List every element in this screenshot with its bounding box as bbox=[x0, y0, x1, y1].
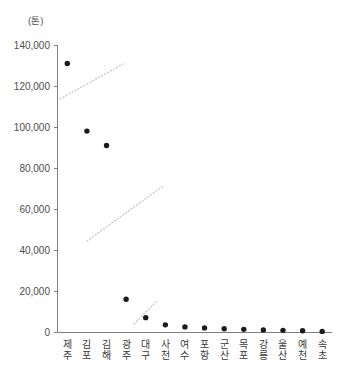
chart-container: (톤) 020,00040,00060,00080,000100,000120,… bbox=[0, 0, 338, 373]
x-axis-category-label: 광 주 bbox=[119, 340, 133, 361]
break-line-3 bbox=[134, 302, 156, 324]
break-line-1 bbox=[60, 64, 123, 99]
y-axis-tick-label: 40,000 bbox=[19, 245, 50, 256]
y-axis-tick-label: 120,000 bbox=[14, 81, 51, 92]
data-point bbox=[163, 322, 168, 327]
break-line-2 bbox=[87, 186, 163, 241]
data-point bbox=[202, 325, 207, 330]
y-axis-tick-labels: 020,00040,00060,00080,000100,000120,0001… bbox=[14, 40, 51, 338]
y-axis-tick-marks bbox=[54, 46, 58, 333]
y-axis-tick-label: 80,000 bbox=[19, 163, 50, 174]
x-axis-category-label: 강 릉 bbox=[256, 340, 270, 361]
data-point bbox=[104, 143, 109, 148]
y-axis-tick-label: 100,000 bbox=[14, 122, 51, 133]
data-point bbox=[241, 327, 246, 332]
x-axis-category-label: 사 천 bbox=[158, 340, 172, 361]
x-axis-category-label: 울 산 bbox=[276, 340, 290, 361]
data-point bbox=[123, 297, 128, 302]
x-axis-category-label: 제 주 bbox=[60, 340, 74, 361]
data-point bbox=[280, 328, 285, 333]
x-axis-category-label: 목 포 bbox=[237, 340, 251, 361]
y-axis-tick-label: 0 bbox=[44, 327, 50, 338]
y-axis-tick-label: 20,000 bbox=[19, 286, 50, 297]
y-axis-tick-label: 140,000 bbox=[14, 40, 51, 51]
axis-break-annotations bbox=[60, 64, 163, 324]
data-point bbox=[143, 315, 148, 320]
x-axis-category-label: 여 수 bbox=[178, 340, 192, 361]
x-axis-category-label: 예 천 bbox=[296, 340, 310, 361]
data-point bbox=[300, 328, 305, 333]
x-axis-category-label: 김 포 bbox=[80, 340, 94, 361]
data-point bbox=[261, 327, 266, 332]
x-axis-category-label: 군 산 bbox=[217, 340, 231, 361]
data-point bbox=[65, 61, 70, 66]
data-point bbox=[221, 326, 226, 331]
x-axis-category-label: 속 초 bbox=[315, 340, 329, 361]
data-point-series bbox=[65, 61, 325, 334]
x-axis-category-label: 대 구 bbox=[139, 340, 153, 361]
x-axis-category-label: 김 해 bbox=[100, 340, 114, 361]
chart-plot: 020,00040,00060,00080,000100,000120,0001… bbox=[0, 0, 338, 373]
x-axis-category-label: 포 항 bbox=[198, 340, 212, 361]
data-point bbox=[319, 329, 324, 334]
y-axis-tick-label: 60,000 bbox=[19, 204, 50, 215]
data-point bbox=[182, 324, 187, 329]
data-point bbox=[84, 128, 89, 133]
